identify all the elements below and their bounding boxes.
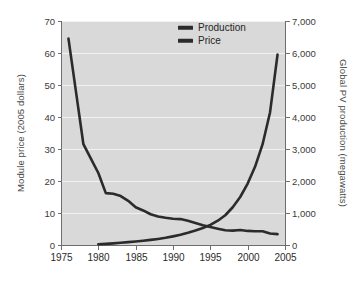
- left-tick-label: 0: [50, 240, 55, 251]
- chart-figure: 010203040506070 01,0002,0003,0004,0005,0…: [0, 0, 360, 283]
- right-tick-label: 7,000: [292, 16, 316, 27]
- x-tick-label: 2000: [237, 252, 260, 263]
- left-tick-label: 50: [44, 80, 55, 91]
- left-tick-label: 60: [44, 48, 55, 59]
- legend-swatch-price: [178, 39, 193, 43]
- x-axis: 1975198019851990199520002005: [50, 246, 297, 264]
- right-axis-tick-labels: 01,0002,0003,0004,0005,0006,0007,000: [292, 16, 316, 251]
- left-axis-tick-labels: 010203040506070: [44, 16, 55, 251]
- left-axis-title: Module price (2005 dollars): [15, 74, 26, 192]
- legend-label-production: Production: [198, 22, 246, 33]
- right-tick-label: 1,000: [292, 208, 316, 219]
- x-axis-tick-labels: 1975198019851990199520002005: [50, 252, 297, 263]
- left-tick-label: 10: [44, 208, 55, 219]
- chart-canvas: 010203040506070 01,0002,0003,0004,0005,0…: [0, 0, 360, 283]
- x-tick-label: 1985: [125, 252, 148, 263]
- x-tick-label: 1990: [162, 252, 185, 263]
- left-axis-ticks: [58, 22, 62, 246]
- x-tick-label: 1975: [50, 252, 73, 263]
- legend-label-price: Price: [198, 35, 221, 46]
- x-tick-label: 1995: [199, 252, 222, 263]
- right-tick-label: 0: [292, 240, 297, 251]
- right-axis-title: Global PV production (megawatts): [338, 59, 349, 207]
- left-axis: 010203040506070: [44, 16, 61, 251]
- right-tick-label: 3,000: [292, 144, 316, 155]
- right-tick-label: 2,000: [292, 176, 316, 187]
- x-tick-label: 1980: [87, 252, 110, 263]
- right-axis: 01,0002,0003,0004,0005,0006,0007,000: [286, 16, 316, 251]
- right-tick-label: 4,000: [292, 112, 316, 123]
- right-tick-label: 5,000: [292, 80, 316, 91]
- x-tick-label: 2005: [274, 252, 297, 263]
- left-tick-label: 40: [44, 112, 55, 123]
- left-tick-label: 30: [44, 144, 55, 155]
- legend-swatch-production: [178, 26, 193, 30]
- right-axis-ticks: [286, 22, 290, 246]
- x-axis-ticks: [62, 246, 286, 250]
- right-tick-label: 6,000: [292, 48, 316, 59]
- left-tick-label: 20: [44, 176, 55, 187]
- plot-background: [61, 21, 285, 245]
- left-tick-label: 70: [44, 16, 55, 27]
